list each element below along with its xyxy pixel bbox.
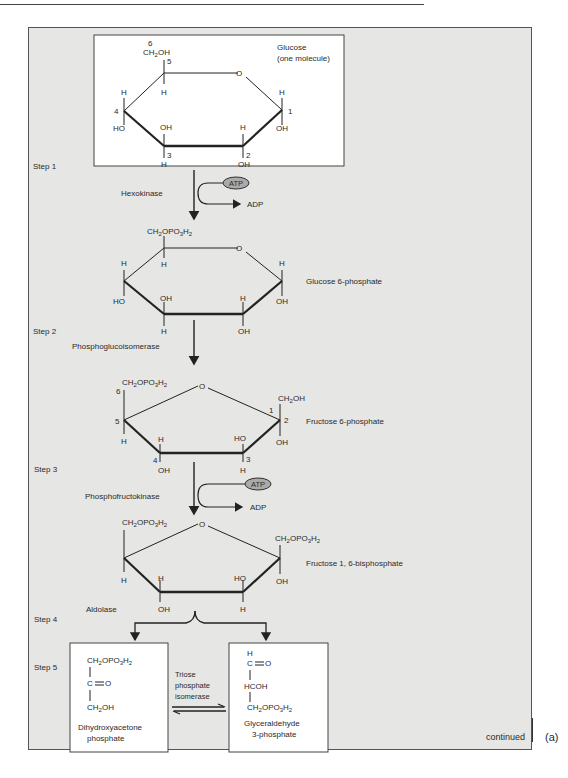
svg-text:H: H (121, 88, 127, 97)
svg-text:H: H (240, 123, 246, 132)
svg-text:O: O (265, 659, 271, 668)
svg-text:C: C (247, 659, 253, 668)
svg-text:HO: HO (113, 297, 125, 306)
svg-text:OH: OH (160, 123, 172, 132)
svg-text:OH: OH (238, 160, 250, 169)
svg-text:H: H (240, 294, 246, 303)
svg-text:2: 2 (246, 151, 251, 160)
svg-text:H: H (121, 259, 127, 268)
svg-text:OH: OH (276, 438, 288, 447)
svg-text:H: H (121, 576, 127, 585)
svg-text:CH2OPO3H2: CH2OPO3H2 (122, 378, 168, 388)
hexokinase-label: Hexokinase (121, 189, 163, 198)
svg-text:Glyceraldehyde: Glyceraldehyde (244, 719, 300, 728)
step-5-label: Step 5 (34, 663, 58, 672)
svg-text:HO: HO (234, 434, 246, 443)
svg-text:H: H (161, 160, 167, 169)
svg-text:OH: OH (158, 605, 170, 614)
glucose-subtitle: (one molecule) (277, 54, 330, 63)
svg-text:CH2OPO3H2: CH2OPO3H2 (87, 656, 133, 666)
svg-text:C: C (87, 679, 93, 688)
svg-text:ATP: ATP (229, 179, 243, 188)
svg-text:CH2OPO3H2: CH2OPO3H2 (247, 703, 293, 713)
svg-text:6: 6 (148, 39, 153, 48)
svg-text:H: H (279, 88, 285, 97)
glucose6p-structure (124, 236, 282, 326)
svg-text:ATP: ATP (251, 480, 265, 489)
svg-text:isomerase: isomerase (175, 692, 210, 701)
step-2-label: Step 2 (33, 327, 57, 336)
svg-text:3: 3 (167, 151, 172, 160)
svg-text:H: H (161, 327, 167, 336)
glucose-name: Glucose (277, 43, 307, 52)
step-4-label: Step 4 (34, 615, 58, 624)
svg-text:H: H (161, 88, 167, 97)
continued-divider (532, 718, 533, 742)
svg-text:HO: HO (234, 574, 246, 583)
svg-text:4: 4 (114, 107, 119, 116)
svg-text:1: 1 (288, 107, 293, 116)
equilibrium-arrows (172, 704, 226, 714)
svg-text:CH2OPO3H2: CH2OPO3H2 (275, 534, 321, 544)
svg-text:Dihydroxyacetone: Dihydroxyacetone (78, 723, 143, 732)
glycolysis-diagram: 6 CH2OH 5 O H H 4 HO OH 3 H H 2 OH H 1 O… (0, 0, 568, 778)
svg-text:H: H (158, 435, 164, 444)
fructose6p-name: Fructose 6-phosphate (306, 417, 384, 426)
panel-label: (a) (545, 731, 558, 743)
svg-text:H: H (158, 574, 164, 583)
aldolase-split-arrow-left (135, 611, 195, 640)
svg-text:2: 2 (284, 416, 289, 425)
fructose16bp-structure (124, 524, 280, 602)
svg-text:OH: OH (276, 124, 288, 133)
svg-text:H: H (240, 466, 246, 475)
svg-text:H: H (279, 259, 285, 268)
triose-phosphate-isomerase-label: Triose phosphate isomerase (175, 670, 210, 701)
adp-label: ADP (247, 200, 263, 209)
svg-text:HCOH: HCOH (244, 682, 268, 691)
svg-text:O: O (105, 679, 111, 688)
svg-text:H: H (247, 649, 253, 658)
fructose16bp-name: Fructose 1, 6-bisphosphate (306, 559, 403, 568)
svg-text:HO: HO (113, 124, 125, 133)
svg-text:OH: OH (158, 466, 170, 475)
aldolase-label: Aldolase (86, 605, 117, 614)
fructose6p-structure (124, 386, 280, 462)
svg-text:3: 3 (246, 455, 251, 464)
svg-text:H: H (240, 605, 246, 614)
svg-text:phosphate: phosphate (87, 734, 125, 743)
aldolase-split-arrow-right (195, 611, 266, 640)
phosphoglucoisomerase-label: Phosphoglucoisomerase (72, 342, 160, 351)
adp-label-2: ADP (250, 503, 266, 512)
svg-text:1: 1 (269, 406, 274, 415)
phosphofructokinase-label: Phosphofructokinase (85, 492, 160, 501)
svg-text:phosphate: phosphate (175, 681, 210, 690)
svg-text:O: O (199, 520, 205, 529)
svg-text:5: 5 (167, 57, 172, 66)
svg-text:O: O (236, 244, 242, 253)
svg-text:O: O (199, 382, 205, 391)
glucose6p-name: Glucose 6-phosphate (306, 277, 383, 286)
step-3-label: Step 3 (34, 465, 58, 474)
svg-text:O: O (236, 69, 242, 78)
continued-label: continued (486, 732, 525, 742)
svg-text:OH: OH (238, 327, 250, 336)
atp-adp-arrow-2 (198, 484, 246, 507)
svg-text:CH2OPO3H2: CH2OPO3H2 (122, 518, 168, 528)
svg-text:CH2OPO3H2: CH2OPO3H2 (147, 227, 193, 237)
svg-text:OH: OH (276, 577, 288, 586)
svg-text:3-phosphate: 3-phosphate (252, 730, 297, 739)
svg-text:OH: OH (160, 294, 172, 303)
svg-text:Triose: Triose (175, 670, 196, 679)
svg-text:H: H (121, 437, 127, 446)
svg-text:OH: OH (276, 297, 288, 306)
step-1-label: Step 1 (33, 162, 57, 171)
svg-text:CH2OH: CH2OH (278, 394, 305, 404)
svg-text:6: 6 (116, 387, 121, 396)
svg-text:5: 5 (115, 417, 120, 426)
svg-text:4: 4 (153, 456, 158, 465)
svg-text:H: H (161, 260, 167, 269)
